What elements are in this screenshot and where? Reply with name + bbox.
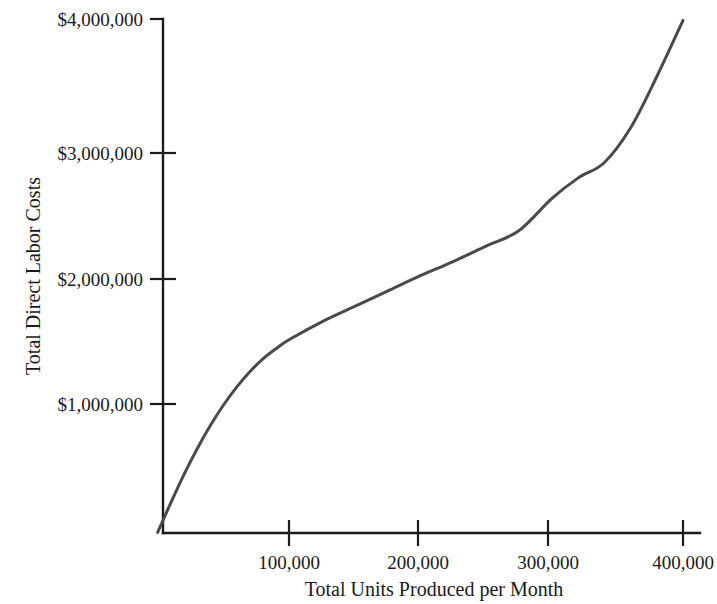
cost-curve-chart: $4,000,000 $3,000,000 $2,000,000 $1,000,…	[0, 0, 717, 604]
chart-svg: $4,000,000 $3,000,000 $2,000,000 $1,000,…	[0, 0, 717, 604]
x-tick-label-100000: 100,000	[258, 552, 320, 573]
x-axis-title: Total Units Produced per Month	[305, 578, 564, 601]
x-tick-label-300000: 300,000	[517, 552, 579, 573]
x-tick-label-200000: 200,000	[387, 552, 449, 573]
y-tick-label-2000000: $2,000,000	[58, 269, 144, 290]
y-tick-label-1000000: $1,000,000	[58, 394, 144, 415]
y-tick-label-3000000: $3,000,000	[58, 143, 144, 164]
x-tick-label-400000: 400,000	[652, 552, 714, 573]
y-tick-label-4000000: $4,000,000	[58, 9, 144, 30]
labor-cost-curve	[158, 20, 683, 532]
y-axis-title: Total Direct Labor Costs	[22, 177, 44, 375]
